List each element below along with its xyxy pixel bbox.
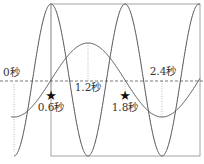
label-0-6s: 0.6秒 — [38, 101, 66, 113]
label-0s: 0秒 — [3, 66, 21, 78]
fast-wave-curve — [14, 4, 200, 156]
label-1-8s: 1.8秒 — [112, 101, 140, 113]
wave-diagram: ★ ★ 0秒 0.6秒 1.2秒 1.8秒 2.4秒 — [0, 0, 204, 164]
label-1-2s: 1.2秒 — [75, 81, 103, 93]
label-2-4s: 2.4秒 — [150, 65, 178, 77]
